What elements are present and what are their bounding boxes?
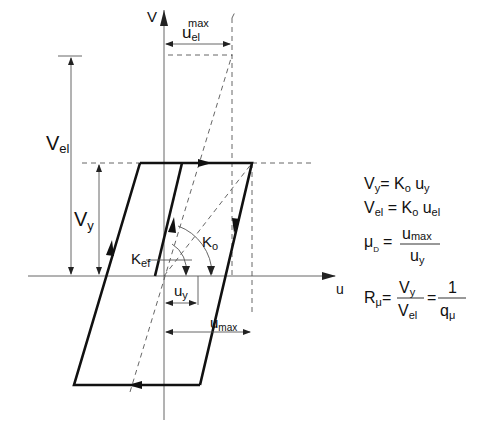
equations: Vy= Ko uy Vel = Ko uel μD= umax uy Rμ= V…: [364, 175, 466, 321]
umax-label: umax: [210, 314, 237, 333]
loop-inner-reload: [155, 163, 182, 276]
arrow-left-up-icon: [106, 240, 114, 256]
arrow-bottom-left-icon: [128, 381, 142, 389]
ko-label: Ko: [202, 233, 218, 252]
equation-mu: μD= umax uy: [364, 225, 440, 266]
svg-text:umax: umax: [402, 225, 432, 242]
elastic-extension-dashed: [130, 55, 232, 392]
loop-bottom-and-left: [74, 163, 200, 385]
uy-label: uy: [174, 282, 188, 301]
svg-text:1: 1: [448, 279, 457, 296]
svg-text:Vy: Vy: [399, 279, 416, 298]
uel-max-label: uelmax: [182, 17, 209, 43]
x-axis-arrow-icon: [322, 272, 336, 280]
svg-text:Rμ=: Rμ=: [364, 289, 391, 308]
equation-vy: Vy= Ko uy: [364, 175, 430, 194]
x-axis-label: u: [336, 281, 344, 297]
vy-label: Vy: [74, 208, 94, 233]
hysteresis-diagram: V u uelmax Vel Vy Kef Ko uy umax Vy= Ko …: [0, 0, 486, 435]
svg-text:μD=: μD=: [364, 233, 392, 254]
guide-lines: [82, 10, 312, 392]
diagram-labels: V u uelmax Vel Vy Kef Ko uy umax: [46, 8, 344, 333]
svg-text:Vel: Vel: [398, 302, 417, 321]
y-axis-arrow-icon: [160, 10, 168, 26]
arrow-top-right-icon: [198, 159, 212, 167]
top-tick: [232, 10, 236, 18]
equation-vel: Vel = Ko uel: [364, 199, 440, 218]
svg-text:=: =: [427, 289, 436, 306]
svg-text:uy: uy: [410, 247, 425, 266]
y-axis-label: V: [147, 8, 157, 25]
equation-r-mu: Rμ= Vy Vel = 1 qμ: [364, 279, 466, 321]
svg-text:qμ: qμ: [440, 302, 455, 321]
kef-label: Kef: [131, 250, 151, 269]
vel-label: Vel: [46, 132, 70, 156]
